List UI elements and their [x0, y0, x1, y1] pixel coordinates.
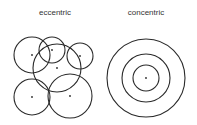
center-dot: [145, 77, 147, 79]
center-dot: [79, 55, 81, 57]
eccentric-circles: [14, 37, 93, 118]
center-dot: [31, 54, 33, 56]
circles-diagram: [0, 0, 197, 125]
center-dot: [69, 95, 71, 97]
center-dot: [51, 49, 53, 51]
center-dot: [31, 96, 33, 98]
center-dot: [56, 67, 58, 69]
concentric-circles: [107, 39, 185, 117]
